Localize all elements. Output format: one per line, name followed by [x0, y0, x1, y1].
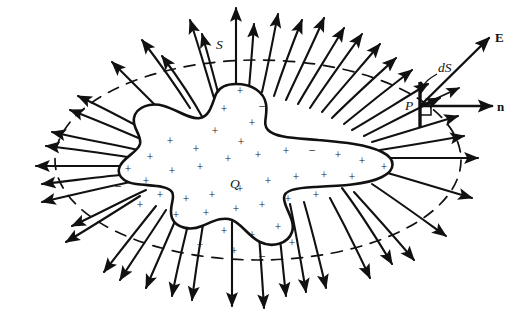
- positive-charge-sign: +: [289, 237, 296, 249]
- field-line: [262, 14, 278, 92]
- positive-charge-sign: +: [259, 199, 266, 211]
- figure-canvas: +–++++++++–++++++–++++++++++++++++++++++…: [0, 0, 516, 319]
- label-field-vector: E: [495, 30, 504, 45]
- field-line: [46, 146, 134, 158]
- positive-charge-sign: +: [197, 239, 204, 251]
- positive-charge-sign: +: [193, 143, 200, 155]
- field-line: [330, 198, 370, 278]
- positive-charge-sign: +: [255, 149, 262, 161]
- positive-charge-sign: +: [249, 117, 256, 129]
- positive-charge-sign: +: [283, 145, 290, 157]
- positive-charge-sign: +: [285, 193, 292, 205]
- field-line: [120, 210, 166, 280]
- field-line: [384, 172, 472, 198]
- field-line: [372, 116, 458, 142]
- label-normal-vector: n: [497, 99, 505, 114]
- positive-charge-sign: +: [209, 189, 216, 201]
- positive-charge-sign: +: [169, 165, 176, 177]
- positive-charge-sign: +: [349, 171, 356, 183]
- field-line: [286, 18, 324, 100]
- positive-charge-sign: +: [221, 225, 228, 237]
- positive-charge-sign: +: [233, 203, 240, 215]
- positive-charge-sign: +: [359, 155, 366, 167]
- negative-charge-sign: –: [114, 179, 121, 191]
- positive-charge-sign: +: [167, 135, 174, 147]
- positive-charge-sign: +: [203, 207, 210, 219]
- positive-charge-sign: +: [147, 151, 154, 163]
- field-line: [66, 196, 140, 242]
- field-line-through-p: [420, 88, 459, 106]
- positive-charge-sign: +: [321, 169, 328, 181]
- positive-charge-sign: +: [221, 103, 228, 115]
- positive-charge-sign: +: [157, 189, 164, 201]
- field-line: [274, 20, 302, 96]
- label-point-p: P: [404, 98, 413, 113]
- label-enclosed-charge: Q: [230, 176, 240, 191]
- gauss-law-diagram: +–++++++++–++++++–++++++++++++++++++++++…: [0, 0, 516, 319]
- field-line: [372, 184, 446, 236]
- negative-charge-sign: –: [308, 143, 315, 155]
- field-line: [192, 218, 204, 300]
- negative-charge-sign: –: [258, 249, 265, 261]
- field-line: [72, 190, 146, 226]
- positive-charge-sign: +: [275, 221, 282, 233]
- positive-charge-sign: +: [183, 193, 190, 205]
- positive-charge-sign: +: [265, 175, 272, 187]
- positive-charge-sign: +: [137, 199, 144, 211]
- negative-charge-sign: –: [258, 99, 265, 111]
- label-area-element: dS: [438, 60, 452, 75]
- positive-charge-sign: +: [293, 171, 300, 183]
- positive-charge-sign: +: [231, 245, 238, 257]
- positive-charge-sign: +: [335, 149, 342, 161]
- field-line: [304, 202, 326, 288]
- positive-charge-sign: +: [238, 136, 245, 148]
- electric-field-vector: [420, 38, 489, 106]
- positive-charge-sign: +: [143, 175, 150, 187]
- positive-charge-sign: +: [237, 85, 244, 97]
- positive-charge-sign: +: [125, 163, 132, 175]
- positive-charge-sign: +: [173, 209, 180, 221]
- label-gaussian-surface: S: [216, 37, 223, 52]
- positive-charge-sign: +: [381, 161, 388, 173]
- positive-charge-sign: +: [197, 161, 204, 173]
- field-line: [190, 20, 214, 98]
- positive-charge-sign: +: [212, 125, 219, 137]
- field-line: [380, 136, 464, 150]
- positive-charge-sign: +: [249, 229, 256, 241]
- positive-charge-sign: +: [313, 189, 320, 201]
- positive-charge-sign: +: [225, 153, 232, 165]
